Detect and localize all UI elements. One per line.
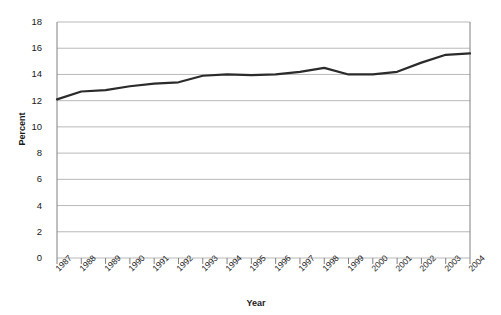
x-axis-tick-label: 2002: [418, 254, 437, 273]
x-axis-tick-label: 1996: [273, 254, 292, 273]
chart-container: Percent 024681012141618 1987198819891990…: [0, 0, 501, 315]
x-axis-tick-label: 1992: [175, 254, 194, 273]
x-axis-tick-label: 1998: [321, 254, 340, 273]
x-axis-tick-label: 2003: [443, 254, 462, 273]
x-axis-tick-label: 1990: [127, 254, 146, 273]
x-axis-tick-label: 2000: [370, 254, 389, 273]
x-axis-tick-label: 1993: [200, 254, 219, 273]
x-axis-tick-label: 1994: [224, 254, 243, 273]
x-axis-tick-label: 1997: [297, 254, 316, 273]
x-axis-title: Year: [246, 298, 265, 308]
x-axis-tick-labels: 1987198819891990199119921993199419951996…: [0, 0, 501, 315]
x-axis-tick-label: 2004: [467, 254, 486, 273]
x-axis-tick-label: 1987: [54, 254, 73, 273]
x-axis-tick-label: 2001: [394, 254, 413, 273]
x-axis-tick-label: 1989: [103, 254, 122, 273]
x-axis-tick-label: 1995: [248, 254, 267, 273]
x-axis-tick-label: 1991: [151, 254, 170, 273]
x-axis-tick-label: 1988: [78, 254, 97, 273]
x-axis-title-wrapper: Year: [40, 292, 472, 310]
x-axis-tick-label: 1999: [346, 254, 365, 273]
